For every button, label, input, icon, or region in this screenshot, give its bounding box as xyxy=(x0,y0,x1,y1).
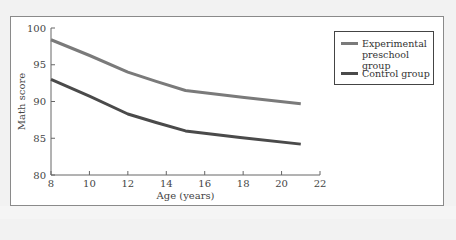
legend-label-line1: Experimental xyxy=(362,38,427,49)
series-line-control xyxy=(51,79,301,144)
legend-swatch-control xyxy=(341,72,358,75)
y-tick-label: 100 xyxy=(27,23,46,34)
series-line-experimental xyxy=(51,40,301,104)
x-tick-label: 8 xyxy=(48,178,54,189)
legend-item-experimental: Experimental preschool group xyxy=(341,38,433,71)
y-axis-label: Math score xyxy=(16,73,27,130)
x-tick-label: 20 xyxy=(275,178,288,189)
page-bottom-strip xyxy=(0,206,456,219)
x-axis-label: Age (years) xyxy=(156,190,215,201)
legend: Experimental preschool group Control gro… xyxy=(334,31,434,85)
x-tick-label: 22 xyxy=(314,178,327,189)
legend-label-experimental: Experimental preschool group xyxy=(362,38,433,71)
x-tick-label: 18 xyxy=(237,178,250,189)
y-tick-label: 95 xyxy=(33,59,46,70)
legend-label-control: Control group xyxy=(362,68,430,79)
x-tick-label: 12 xyxy=(121,178,134,189)
x-tick-label: 14 xyxy=(160,178,173,189)
legend-item-control: Control group xyxy=(341,68,430,79)
y-tick-label: 85 xyxy=(33,133,46,144)
y-tick-label: 90 xyxy=(33,96,46,107)
x-tick-label: 16 xyxy=(198,178,211,189)
legend-swatch-experimental xyxy=(341,42,358,45)
x-tick-label: 10 xyxy=(83,178,96,189)
y-tick-label: 80 xyxy=(33,170,46,181)
